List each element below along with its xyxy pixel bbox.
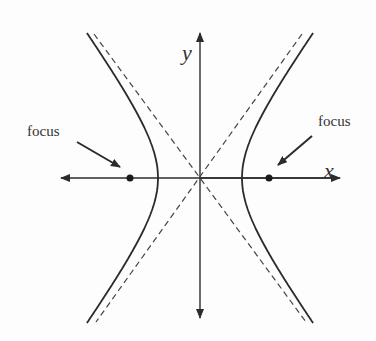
x-axis-label: x — [324, 158, 334, 184]
y-axis-label: y — [182, 40, 192, 66]
left-focus-arrow — [77, 142, 120, 167]
right-focus-point — [266, 175, 273, 182]
right-focus-arrow — [278, 136, 312, 165]
left-focus-point — [127, 175, 134, 182]
left-focus-label: focus — [27, 123, 60, 140]
right-focus-label: focus — [318, 113, 351, 130]
hyperbola-diagram: focus focus y x — [0, 0, 376, 341]
